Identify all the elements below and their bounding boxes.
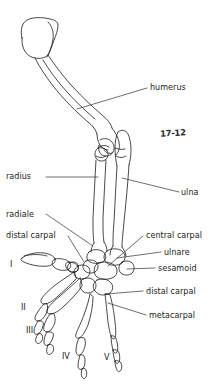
label-radius: radius	[6, 172, 31, 181]
carpal-bones	[68, 249, 134, 295]
digit-I	[21, 253, 78, 272]
anatomy-figure: humerus radius ulna radiale distal carpa…	[0, 0, 221, 389]
leader-distal-carpal-upper	[68, 236, 84, 262]
humerus-bone	[21, 18, 119, 156]
digit-label-II: II	[21, 303, 26, 312]
label-ulna: ulna	[181, 188, 198, 197]
digit-II	[34, 272, 76, 344]
label-metacarpal: metacarpal	[149, 311, 195, 320]
label-humerus: humerus	[150, 83, 186, 92]
digit-label-IV: IV	[62, 352, 70, 361]
figure-number-annotation: 17-12	[160, 127, 186, 138]
digit-label-V: V	[104, 353, 109, 362]
radius-bone	[91, 148, 108, 252]
digit-IV	[76, 294, 93, 379]
leader-radiale	[46, 214, 93, 246]
digit-label-I: I	[10, 260, 12, 269]
leader-ulna	[122, 178, 179, 192]
digit-label-III: III	[26, 326, 33, 335]
sesamoid-bone	[119, 261, 134, 275]
radiale-bone	[87, 250, 106, 264]
ulna-bone	[110, 130, 131, 256]
distal-carpal-1	[74, 265, 90, 279]
leader-humerus	[77, 88, 147, 109]
label-distal-carpal-upper: distal carpal	[6, 231, 56, 240]
label-ulnare: ulnare	[164, 248, 190, 257]
leader-sesamoid	[127, 268, 155, 269]
label-radiale: radiale	[6, 210, 34, 219]
label-sesamoid: sesamoid	[158, 264, 197, 273]
label-central-carpal: central carpal	[146, 231, 202, 240]
label-distal-carpal-lower: distal carpal	[146, 287, 196, 296]
